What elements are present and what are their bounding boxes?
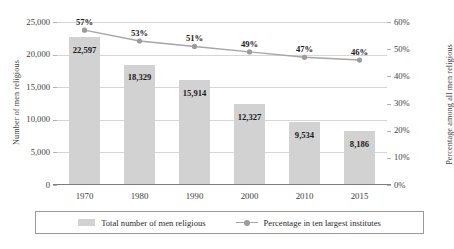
bar-value-label: 8,186: [332, 139, 387, 149]
line-marker: [82, 28, 87, 33]
legend-item-line: Percentage in ten largest institutes: [236, 218, 381, 228]
y-tick-right: [387, 76, 391, 77]
y-tick-right: [387, 158, 391, 159]
x-axis-line: [53, 184, 391, 185]
y-axis-right-label: 0%: [394, 180, 405, 190]
y-axis-right-label: 50%: [394, 44, 410, 54]
line-marker: [357, 57, 362, 62]
y-axis-left-label: 5,000: [31, 147, 50, 157]
bar-value-label: 15,914: [167, 88, 222, 98]
y-tick-right: [387, 131, 391, 132]
x-axis-label: 2015: [332, 191, 387, 201]
x-axis-label: 2010: [277, 191, 332, 201]
line-value-label: 51%: [167, 33, 222, 43]
bar-value-label: 22,597: [57, 45, 112, 55]
x-axis-label: 1980: [112, 191, 167, 201]
y-axis-right-label: 30%: [394, 98, 410, 108]
x-axis-label: 2000: [222, 191, 277, 201]
y-tick-right: [387, 49, 391, 50]
y-axis-left-label: 10,000: [26, 114, 50, 124]
y-axis-right-label: 60%: [394, 17, 410, 27]
y-axis-right-label: 10%: [394, 152, 410, 162]
legend-label-bars: Total number of men religious: [101, 218, 205, 228]
x-axis-label: 1970: [57, 191, 112, 201]
line-value-label: 49%: [222, 39, 277, 49]
bar-value-label: 12,327: [222, 112, 277, 122]
line-value-label: 57%: [57, 17, 112, 27]
y-axis-left-title: Number of men religious: [12, 38, 21, 168]
y-axis-left-label: 25,000: [26, 17, 50, 27]
line-marker: [192, 44, 197, 49]
line-marker-icon: [236, 219, 258, 226]
legend-item-bars: Total number of men religious: [78, 218, 205, 228]
y-axis-left-label: 15,000: [26, 82, 50, 92]
line-marker: [247, 49, 252, 54]
line-value-label: 53%: [112, 28, 167, 38]
y-axis-right-label: 20%: [394, 125, 410, 135]
legend-label-line: Percentage in ten largest institutes: [264, 218, 381, 228]
bar-value-label: 9,534: [277, 130, 332, 140]
line-value-label: 46%: [332, 47, 387, 57]
plot-area: 05,00010,00015,00020,00025,000 0%10%20%3…: [57, 22, 387, 185]
bar-swatch-icon: [78, 219, 95, 226]
line-value-label: 47%: [277, 44, 332, 54]
y-axis-right-label: 40%: [394, 71, 410, 81]
chart-legend: Total number of men religious Percentage…: [35, 211, 424, 234]
line-marker: [302, 55, 307, 60]
y-axis-right-title: Percentage among all men religious: [445, 25, 454, 185]
y-tick-right: [387, 22, 391, 23]
x-axis-label: 1990: [167, 191, 222, 201]
line-marker: [137, 38, 142, 43]
y-tick-right: [387, 104, 391, 105]
y-axis-left-label: 0: [46, 180, 50, 190]
bar-value-label: 18,329: [112, 72, 167, 82]
y-axis-left-label: 20,000: [26, 49, 50, 59]
